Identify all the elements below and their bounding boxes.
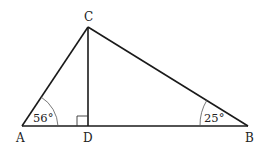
angle-label-a: 56°	[33, 111, 53, 125]
side-ac	[22, 27, 88, 126]
label-b: B	[245, 131, 254, 145]
label-d: D	[83, 131, 93, 145]
label-a: A	[15, 131, 25, 145]
angle-label-b: 25°	[204, 111, 224, 125]
right-angle-marker	[77, 116, 88, 126]
triangle-diagram: A B C D 56° 25°	[0, 0, 265, 148]
label-c: C	[84, 10, 93, 24]
